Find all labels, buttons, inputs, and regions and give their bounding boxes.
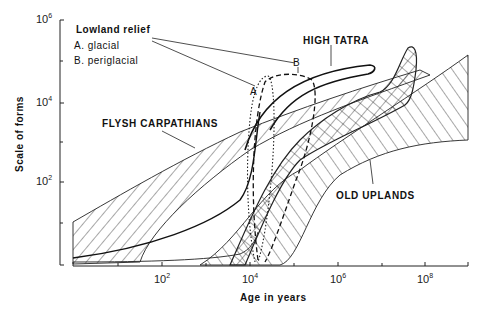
region-old-uplands xyxy=(200,55,468,265)
y-tick-2: 102 xyxy=(36,174,52,187)
label-a-glacial: A. glacial xyxy=(74,40,120,51)
label-flysh-carpathians: FLYSH CARPATHIANS xyxy=(102,118,218,129)
y-tick-6: 106 xyxy=(36,12,52,25)
label-a: A xyxy=(250,86,257,97)
label-high-tatra: HIGH TATRA xyxy=(303,35,369,46)
label-old-uplands: OLD UPLANDS xyxy=(336,190,415,201)
label-lowland-relief: Lowland relief xyxy=(76,24,150,35)
y-tick-4: 104 xyxy=(36,95,52,108)
label-b: B xyxy=(293,57,300,68)
x-tick-4: 104 xyxy=(242,272,258,285)
label-b-periglacial: B. periglacial xyxy=(74,55,138,66)
x-axis-label: Age in years xyxy=(240,292,307,303)
x-tick-2: 102 xyxy=(154,272,170,285)
x-tick-8: 108 xyxy=(417,272,433,285)
x-tick-6: 106 xyxy=(330,272,346,285)
y-axis-label: Scale of forms xyxy=(14,96,25,172)
